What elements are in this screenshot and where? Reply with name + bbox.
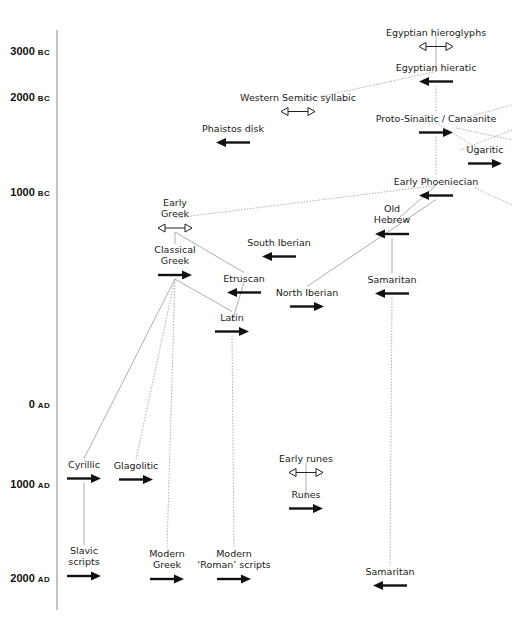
node-label-line: Greek (149, 559, 185, 570)
node-label-glagolitic: Glagolitic (114, 460, 159, 471)
node-label-ugaritic: Ugaritic (467, 144, 504, 155)
tick-1000-bc: 1000 BC (0, 186, 50, 198)
arrow-left-icon (375, 289, 409, 298)
node-label-line: Slavic (68, 545, 99, 556)
arrow-right-icon (158, 271, 192, 280)
tick-year: 0 (29, 398, 35, 410)
node-label-classical-greek: ClassicalGreek (154, 244, 195, 266)
double-open-arrow-icon (281, 108, 315, 116)
edge-samaritan-early-to-samaritan-modern (390, 298, 392, 566)
arrow-left-icon (373, 581, 407, 590)
arrow-right-icon (468, 159, 502, 168)
edge-classical-greek-to-cyrillic (84, 279, 175, 459)
node-label-line: Egyptian hieroglyphs (386, 27, 486, 38)
edge-classical-greek-to-latin (175, 279, 232, 312)
node-label-slavic-scripts: Slavicscripts (68, 545, 99, 567)
node-label-modern-greek: ModernGreek (149, 548, 185, 570)
node-label-line: Proto-Sinaitic / Canaanite (376, 113, 497, 124)
node-label-egyptian-hieroglyphs: Egyptian hieroglyphs (386, 27, 486, 38)
node-label-line: ‘Roman’ scripts (197, 559, 271, 570)
node-label-line: Etruscan (223, 273, 265, 284)
node-label-early-greek: EarlyGreek (161, 197, 189, 219)
tick-year: 2000 (10, 91, 34, 103)
tick-0-ad: 0 AD (0, 398, 50, 410)
node-label-line: Modern (149, 548, 185, 559)
node-label-proto-sinaitic-canaanite: Proto-Sinaitic / Canaanite (376, 113, 497, 124)
node-label-north-iberian: North Iberian (276, 287, 339, 298)
arrow-right-icon (215, 327, 249, 336)
node-label-line: South Iberian (247, 237, 311, 248)
node-label-samaritan-modern: Samaritan (365, 566, 414, 577)
node-label-line: Runes (291, 489, 320, 500)
node-label-line: Latin (220, 312, 244, 323)
double-open-arrow-icon (158, 224, 192, 232)
tick-era: BC (38, 48, 50, 57)
tick-era: AD (38, 481, 50, 490)
node-label-line: Ugaritic (467, 144, 504, 155)
node-label-line: North Iberian (276, 287, 339, 298)
edge-classical-greek-to-modern-greek (167, 279, 175, 548)
node-label-line: Old (374, 203, 410, 214)
node-label-line: Samaritan (365, 566, 414, 577)
node-label-line: Phaistos disk (202, 123, 264, 134)
tick-era: BC (38, 94, 50, 103)
node-label-line: Greek (154, 255, 195, 266)
node-label-latin: Latin (220, 312, 244, 323)
tick-year: 1000 (10, 186, 34, 198)
arrow-right-icon (67, 572, 101, 581)
arrow-left-icon (216, 138, 250, 147)
edge-latin-to-modern-roman-scripts (232, 336, 234, 549)
arrow-right-icon (150, 575, 184, 584)
node-label-early-phoeniecian: Early Phoeniecian (394, 176, 479, 187)
node-label-modern-roman-scripts: Modern‘Roman’ scripts (197, 548, 271, 570)
node-label-old-hebrew: OldHebrew (374, 203, 410, 225)
node-label-samaritan-early: Samaritan (367, 274, 416, 285)
tick-year: 2000 (10, 572, 34, 584)
node-label-phaistos-disk: Phaistos disk (202, 123, 264, 134)
node-label-egyptian-hieratic: Egyptian hieratic (396, 62, 477, 73)
tick-2000-ad: 2000 AD (0, 572, 50, 584)
arrow-left-icon (419, 191, 453, 200)
node-label-line: Western Semitic syllabic (240, 92, 356, 103)
node-label-cyrillic: Cyrillic (68, 459, 100, 470)
tick-1000-ad: 1000 AD (0, 478, 50, 490)
node-label-line: Greek (161, 208, 189, 219)
node-label-line: Egyptian hieratic (396, 62, 477, 73)
tick-era: AD (38, 401, 50, 410)
node-label-line: Modern (197, 548, 271, 559)
node-label-runes: Runes (291, 489, 320, 500)
node-label-line: Early (161, 197, 189, 208)
arrow-right-icon (67, 474, 101, 483)
node-label-line: Samaritan (367, 274, 416, 285)
tick-era: BC (38, 189, 50, 198)
node-label-line: Early runes (279, 453, 333, 464)
node-label-line: Glagolitic (114, 460, 159, 471)
arrow-right-icon (289, 504, 323, 513)
node-label-line: Cyrillic (68, 459, 100, 470)
node-label-etruscan: Etruscan (223, 273, 265, 284)
tick-3000-bc: 3000 BC (0, 45, 50, 57)
tick-year: 3000 (10, 45, 34, 57)
node-label-line: Classical (154, 244, 195, 255)
node-label-line: Early Phoeniecian (394, 176, 479, 187)
arrow-left-icon (262, 252, 296, 261)
arrows-layer (67, 43, 502, 591)
edge-offscreen (475, 188, 512, 205)
node-label-western-semitic-syllabic: Western Semitic syllabic (240, 92, 356, 103)
tick-era: AD (38, 575, 50, 584)
writing-systems-diagram: 3000 BC 2000 BC 1000 BC 0 AD 1000 AD 200… (0, 0, 512, 632)
arrow-right-icon (217, 575, 251, 584)
arrow-left-icon (227, 288, 261, 297)
tick-year: 1000 (10, 478, 34, 490)
node-label-south-iberian: South Iberian (247, 237, 311, 248)
edge-offscreen (456, 128, 512, 140)
node-label-line: scripts (68, 556, 99, 567)
arrow-left-icon (419, 77, 453, 86)
arrow-right-icon (419, 128, 453, 137)
edge-classical-greek-to-glagolitic (136, 279, 175, 460)
node-label-early-runes: Early runes (279, 453, 333, 464)
arrow-right-icon (119, 475, 153, 484)
arrow-right-icon (290, 302, 324, 311)
tick-2000-bc: 2000 BC (0, 91, 50, 103)
node-label-line: Hebrew (374, 214, 410, 225)
